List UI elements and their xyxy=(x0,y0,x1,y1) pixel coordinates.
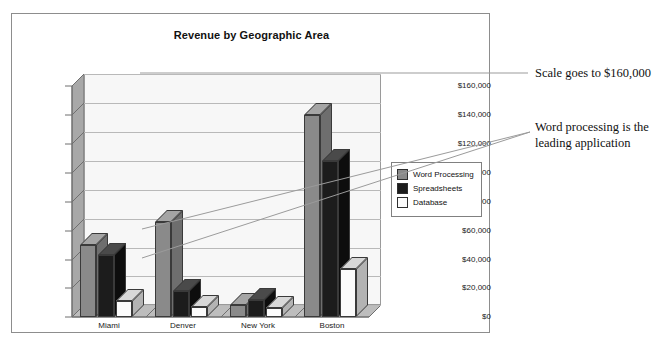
legend-swatch-word-processing-icon xyxy=(397,169,408,180)
ytick-label-40000: $40,000 xyxy=(433,255,491,264)
xtick-label-denver: Denver xyxy=(146,321,220,330)
bar-miami-word-processing xyxy=(80,245,96,317)
xtick-label-miami: Miami xyxy=(72,321,146,330)
ytick-label-0: $0 xyxy=(433,312,491,321)
legend-label-word-processing: Word Processing xyxy=(413,170,474,179)
legend-item-spreadsheets: Spreadsheets xyxy=(397,183,474,194)
bar-new-york-word-processing xyxy=(230,305,246,317)
ytick-label-120000: $120,000 xyxy=(433,139,491,148)
legend-swatch-spreadsheets-icon xyxy=(397,183,408,194)
bar-boston-database xyxy=(340,269,356,317)
ytick-label-160000: $160,000 xyxy=(433,81,491,90)
chart-screenshot: Revenue by Geographic Area xyxy=(0,0,660,351)
chart-legend: Word Processing Spreadsheets Database xyxy=(391,162,482,217)
annotation-leading-app-line2: leading application xyxy=(535,135,649,151)
legend-item-database: Database xyxy=(397,197,474,208)
plot-area: $160,000 $140,000 $120,000 $100,000 $80,… xyxy=(12,14,491,334)
annotation-leading-app-line1: Word processing is the xyxy=(535,119,649,135)
bar-boston-spreadsheets xyxy=(322,161,338,317)
legend-label-database: Database xyxy=(413,198,447,207)
bar-new-york-database xyxy=(266,308,282,317)
legend-item-word-processing: Word Processing xyxy=(397,169,474,180)
xtick-label-boston: Boston xyxy=(295,321,369,330)
bar-miami-spreadsheets xyxy=(98,255,114,317)
ytick-label-60000: $60,000 xyxy=(433,226,491,235)
ytick-label-140000: $140,000 xyxy=(433,110,491,119)
bar-denver-database xyxy=(191,307,207,317)
xtick-label-new-york: New York xyxy=(221,321,295,330)
legend-swatch-database-icon xyxy=(397,197,408,208)
annotation-scale-note: Scale goes to $160,000 xyxy=(535,65,651,81)
bar-denver-word-processing xyxy=(155,222,171,317)
bar-denver-spreadsheets xyxy=(173,291,189,317)
bar-new-york-spreadsheets xyxy=(248,300,264,317)
legend-label-spreadsheets: Spreadsheets xyxy=(413,184,462,193)
bar-miami-database xyxy=(116,301,132,317)
bar-boston-word-processing xyxy=(304,115,320,317)
chart-frame: Revenue by Geographic Area xyxy=(11,13,490,333)
ytick-label-20000: $20,000 xyxy=(433,283,491,292)
annotation-leading-app-note: Word processing is the leading applicati… xyxy=(535,119,649,151)
